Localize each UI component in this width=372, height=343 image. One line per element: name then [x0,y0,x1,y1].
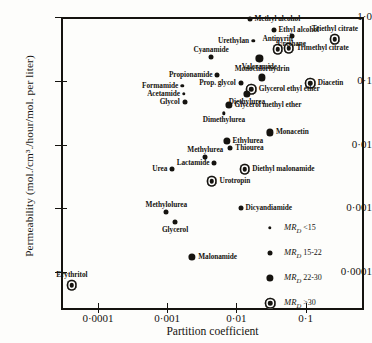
y-tick-label: 0·0001 [320,265,372,277]
data-point-label: Monacetin [276,129,309,136]
data-point-label: Glycerol methyl ether [235,101,302,108]
x-tick-label: 0·1 [276,312,336,324]
y-tick-label: 1·0 [320,10,372,22]
figure-scatter-permeability-vs-partition-coefficient: 1·00·10·010·0010·0001 0·00010·0010·010·1… [0,0,372,343]
data-point-label: Acetamide [147,90,180,97]
data-point-label: Glycol [160,99,180,106]
data-point-label: Glycerol [162,226,188,233]
data-point [271,28,276,33]
data-point [228,146,233,151]
data-point-label: Diethyl malonamide [252,166,314,173]
legend-label: MRD 22-30 [284,272,322,284]
data-point-label: Cyanamide [193,46,228,53]
y-tick-mark [55,17,67,18]
legend-label-symbol: MR [284,222,296,232]
legend-marker [265,298,276,309]
legend-label: MRD 15-22 [284,247,322,259]
data-point [173,220,178,225]
y-tick-mark [55,145,67,146]
data-point [182,100,187,105]
y-tick-mark [55,81,67,82]
x-tick-label: 0·01 [206,312,266,324]
data-point [206,176,217,187]
data-point-label: Dicyandiamide [246,204,292,211]
data-point [209,55,214,60]
data-point-label: Urotropin [219,178,250,185]
data-point [67,280,78,291]
data-point-label: Methyl alcohol [254,15,300,22]
y-tick-label: 0·01 [320,138,372,150]
data-point [239,164,250,175]
x-tick-label: 0·0001 [68,312,128,324]
data-point-label: Triethyl citrate [312,25,358,32]
data-point-label: Prop. glycol [199,79,236,86]
data-point [215,72,220,77]
legend-label: MRD <15 [284,222,316,234]
legend-label-range: >30 [301,298,316,307]
legend-label-range: <15 [301,223,316,232]
x-tick-label: 0·001 [137,312,197,324]
data-point-label: Lactamide [177,159,210,166]
data-point-label: Trimethyl citrate [296,44,348,51]
data-point-label: Methylurea [187,146,223,153]
data-point-label: Monochlorhydrin [235,65,290,72]
legend-label-symbol: MR [284,297,296,307]
legend-label-range: 15-22 [301,248,322,257]
y-axis-title: Permeability (mol./cm³./hour/mol. per li… [23,31,35,281]
data-point-label: Antipyrin [262,35,292,42]
data-point-label: Methylolurea [146,201,187,208]
legend-label-symbol: MR [284,247,296,257]
y-tick-label: 0·001 [320,201,372,213]
x-axis-title: Partition coefficient [61,325,364,338]
data-point [164,210,169,215]
data-point [247,17,252,22]
data-point-label: Thiourea [235,144,263,151]
y-tick-mark [55,208,67,209]
data-point-label: Urea [152,165,167,172]
data-point [238,205,243,210]
data-point-label: Erythritol [56,271,87,278]
data-point [212,160,217,165]
data-point-label: Diacetin [318,79,344,86]
data-point-label: Glycerol ethyl ether [259,85,320,92]
data-point-label: Formamide [142,82,178,89]
legend-label: MRD >30 [284,297,316,309]
data-point [238,80,243,85]
data-point-label: Urethylan [218,37,249,44]
data-point-label: Malonamide [198,253,237,260]
data-point-label: Dimethylurea [203,116,245,123]
legend-label-symbol: MR [284,272,296,282]
legend-label-range: 22-30 [301,273,322,282]
legend-marker [268,251,273,256]
data-point [170,166,175,171]
